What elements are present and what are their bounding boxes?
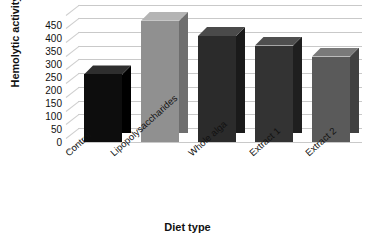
x-tick-label-extract-1: Extract 1 bbox=[247, 125, 282, 158]
x-tick-label-whole-alga: Whole alga bbox=[186, 118, 229, 158]
x-axis-tick-labels: ControlLipopolysaccharidesWhole algaExtr… bbox=[0, 0, 375, 239]
x-axis-title: Diet type bbox=[0, 221, 375, 233]
x-tick-label-lipopolysaccharides: Lipopolysaccharides bbox=[108, 92, 179, 158]
x-tick-label-extract-2: Extract 2 bbox=[303, 125, 338, 158]
bar-chart: Hemolytic activity (U/mL) 0 50 100 150 2… bbox=[0, 0, 375, 239]
x-tick-label-control: Control bbox=[63, 130, 93, 159]
